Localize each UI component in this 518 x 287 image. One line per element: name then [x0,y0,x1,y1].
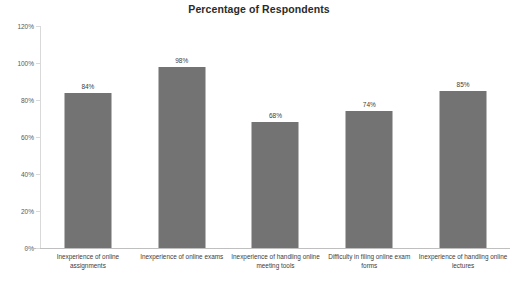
y-axis-tick-mark [36,100,40,101]
bar-chart: Percentage of Respondents 0%20%40%60%80%… [0,0,518,287]
bar-group: 98% [135,26,229,248]
bar [252,122,299,248]
x-axis-labels: Inexperience of online assignmentsInexpe… [41,252,510,287]
bar [158,67,205,248]
x-axis-category-label: Inexperience of online assignments [41,252,135,270]
y-axis-tick-label: 60% [4,134,34,141]
x-axis-line [25,248,510,249]
y-axis-tick-mark [36,63,40,64]
bar-group: 68% [229,26,323,248]
bar [346,111,393,248]
bar-group: 74% [322,26,416,248]
bar-value-label: 74% [363,101,376,108]
y-axis-tick-mark [36,137,40,138]
y-axis-tick-mark [36,26,40,27]
x-axis-category-label: Difficulty in filing online exam forms [322,252,416,270]
chart-title: Percentage of Respondents [0,3,518,15]
bar-value-label: 68% [269,112,282,119]
bar-value-label: 85% [457,81,470,88]
bar-value-label: 98% [175,57,188,64]
y-axis-tick-mark [36,248,40,249]
y-axis-tick-label: 100% [4,60,34,67]
plot-area: 84%98%68%74%85% [41,26,510,248]
x-axis-category-label: Inexperience of handling online lectures [416,252,510,270]
bar [64,93,111,248]
y-axis-tick-label: 80% [4,97,34,104]
bar-group: 85% [416,26,510,248]
y-axis-labels: 0%20%40%60%80%100%120% [0,0,34,287]
x-axis-category-label: Inexperience of online exams [135,252,229,261]
x-axis-category-label: Inexperience of handling online meeting … [229,252,323,270]
y-axis-tick-mark [36,211,40,212]
bar-group: 84% [41,26,135,248]
y-axis-tick-label: 20% [4,208,34,215]
y-axis-tick-label: 120% [4,23,34,30]
bar [440,91,487,248]
y-axis-tick-label: 40% [4,171,34,178]
y-axis-tick-mark [36,174,40,175]
bar-value-label: 84% [81,83,94,90]
